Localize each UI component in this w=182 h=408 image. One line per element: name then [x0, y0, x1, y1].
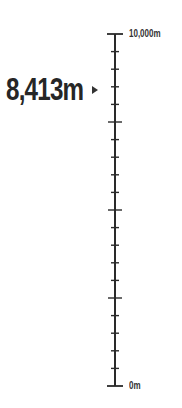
- min-label: 0m: [129, 380, 141, 391]
- altitude-ruler: [0, 0, 182, 408]
- max-label: 10,000m: [129, 28, 161, 39]
